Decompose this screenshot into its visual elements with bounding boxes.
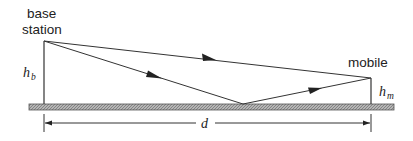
base-station-label-line2: station (22, 22, 62, 37)
mobile-height-label: hm (379, 84, 394, 101)
incident-ray-arrow-icon (146, 71, 162, 79)
reflected-ray-arrow-icon (308, 88, 322, 95)
direct-ray-arrow-icon (202, 54, 216, 62)
base-station-label-line1: base (27, 6, 56, 21)
reflected-ray (243, 78, 371, 104)
mobile-label: mobile (348, 55, 388, 70)
dimension-arrow-left-icon (45, 121, 52, 126)
dimension-arrow-right-icon (363, 121, 370, 126)
base-height-label: hb (23, 65, 36, 82)
two-ray-ground-reflection-diagram: base station mobile hb hm d (0, 0, 413, 141)
incident-ray (44, 41, 243, 104)
ground-plane (29, 104, 394, 110)
distance-label: d (201, 116, 209, 131)
